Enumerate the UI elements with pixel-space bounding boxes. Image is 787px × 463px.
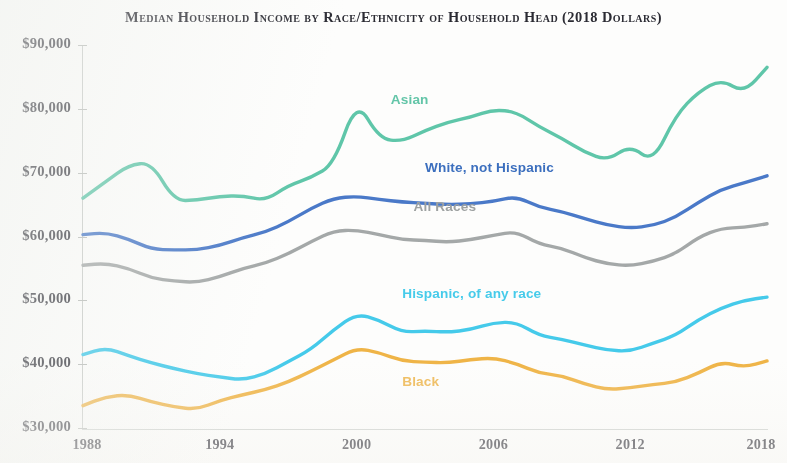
series-line [83, 297, 767, 379]
series-label-hispanic-of-any-race: Hispanic, of any race [402, 286, 541, 301]
series-lines [0, 0, 787, 463]
series-label-asian: Asian [391, 92, 429, 107]
series-label-all-races: All Races [414, 199, 477, 214]
series-label-black: Black [402, 374, 439, 389]
series-line [83, 67, 767, 200]
series-line [83, 224, 767, 282]
series-label-white-not-hispanic: White, not Hispanic [425, 160, 554, 175]
chart-page: Median Household Income by Race/Ethnicit… [0, 0, 787, 463]
